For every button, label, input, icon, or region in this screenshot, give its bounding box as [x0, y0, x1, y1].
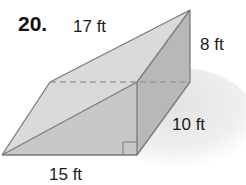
label-hypotenuse: 17 ft	[73, 17, 106, 36]
prism-figure: 20. 17 ft 8 ft 10 ft 15 ft	[0, 0, 246, 185]
problem-number: 20.	[18, 12, 47, 35]
label-height: 8 ft	[200, 35, 224, 54]
label-base: 15 ft	[49, 165, 82, 184]
label-depth: 10 ft	[172, 115, 205, 134]
